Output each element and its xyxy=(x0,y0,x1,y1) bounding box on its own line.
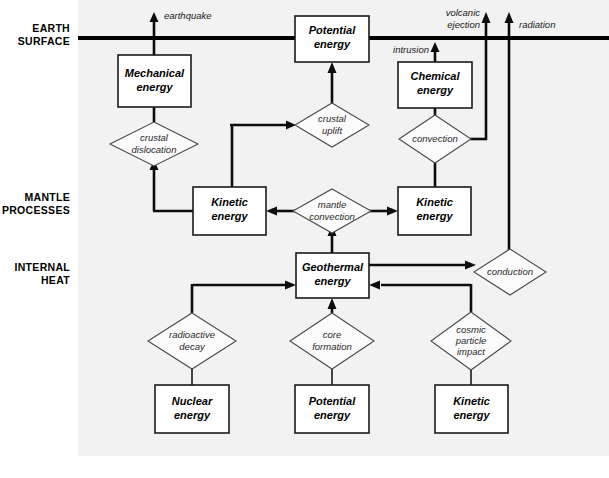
zone-internal-line1: INTERNAL xyxy=(15,261,71,273)
potential-core-line2: energy xyxy=(314,409,351,421)
mechanical-energy-line1: Mechanical xyxy=(125,67,185,79)
zone-earth-surface-line1: EARTH xyxy=(32,22,70,34)
geothermal-line2: energy xyxy=(314,275,351,287)
zone-label-earth-surface: EARTH SURFACE xyxy=(18,22,70,47)
zone-internal-line2: HEAT xyxy=(41,274,70,286)
node-geothermal-energy[interactable]: Geothermal energy xyxy=(296,253,369,298)
zone-mantle-line1: MANTLE xyxy=(24,191,70,203)
geothermal-line1: Geothermal xyxy=(302,261,364,273)
crustal-dislocation-line2: dislocation xyxy=(132,144,177,155)
cosmic-impact-line1: cosmic xyxy=(456,324,486,335)
conduction-label: conduction xyxy=(487,266,533,277)
crustal-uplift-line2: uplift xyxy=(322,125,342,136)
radioactive-decay-line1: radioactive xyxy=(169,329,215,340)
node-nuclear-energy[interactable]: Nuclear energy xyxy=(155,385,229,433)
kinetic-left-line2: energy xyxy=(211,210,248,222)
crustal-dislocation-line1: crustal xyxy=(140,132,169,143)
outflow-label-intrusion: intrusion xyxy=(393,44,429,55)
outflow-label-volcanic-line2: ejection xyxy=(447,19,480,30)
core-formation-line2: formation xyxy=(312,341,352,352)
kinetic-impact-line2: energy xyxy=(453,409,490,421)
cosmic-impact-line3: impact xyxy=(457,346,485,357)
zone-mantle-line2: PROCESSES xyxy=(2,204,70,216)
zone-earth-surface-line2: SURFACE xyxy=(18,35,70,47)
nuclear-line2: energy xyxy=(174,409,211,421)
outflow-label-radiation: radiation xyxy=(519,19,555,30)
potential-core-line1: Potential xyxy=(309,395,356,407)
mantle-convection-line2: convection xyxy=(309,211,354,222)
kinetic-right-line1: Kinetic xyxy=(416,196,453,208)
radioactive-decay-line2: decay xyxy=(179,341,206,352)
core-formation-line1: core xyxy=(323,329,341,340)
cosmic-impact-line2: particle xyxy=(455,335,487,346)
node-potential-energy-core[interactable]: Potential energy xyxy=(295,385,369,433)
mantle-convection-line1: mantle xyxy=(318,199,347,210)
chemical-energy-line1: Chemical xyxy=(411,70,461,82)
potential-energy-surface-line2: energy xyxy=(314,38,351,50)
nuclear-line1: Nuclear xyxy=(172,395,213,407)
node-kinetic-energy-mantle-left[interactable]: Kinetic energy xyxy=(193,187,266,235)
kinetic-right-line2: energy xyxy=(416,210,453,222)
kinetic-left-line1: Kinetic xyxy=(211,196,248,208)
node-potential-energy-surface[interactable]: Potential energy xyxy=(295,16,369,62)
zone-label-internal-heat: INTERNAL HEAT xyxy=(15,261,71,286)
outflow-label-earthquake: earthquake xyxy=(164,10,212,21)
mechanical-energy-line2: energy xyxy=(136,81,173,93)
potential-energy-surface-line1: Potential xyxy=(309,24,356,36)
node-chemical-energy[interactable]: Chemical energy xyxy=(398,62,472,108)
node-kinetic-energy-mantle-right[interactable]: Kinetic energy xyxy=(398,187,471,235)
zone-label-mantle-processes: MANTLE PROCESSES xyxy=(2,191,70,216)
node-mechanical-energy[interactable]: Mechanical energy xyxy=(118,55,191,107)
crustal-uplift-line1: crustal xyxy=(318,113,347,124)
convection-label: convection xyxy=(412,133,457,144)
outflow-label-volcanic-line1: volcanic xyxy=(446,7,481,18)
energy-flow-diagram: EARTH SURFACE MANTLE PROCESSES INTERNAL … xyxy=(0,0,609,478)
kinetic-impact-line1: Kinetic xyxy=(453,395,490,407)
node-kinetic-energy-impact[interactable]: Kinetic energy xyxy=(435,385,508,433)
figure-root: EARTH SURFACE MANTLE PROCESSES INTERNAL … xyxy=(0,0,609,478)
chemical-energy-line2: energy xyxy=(417,84,454,96)
